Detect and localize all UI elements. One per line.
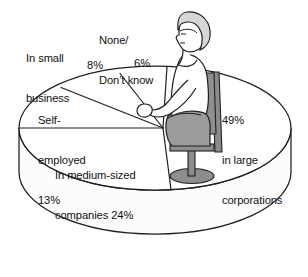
- pie-chart-figure: In small business None/ Don’t know Self-…: [0, 0, 308, 277]
- slice-label-self-employed-line1: Self-: [38, 114, 110, 127]
- slice-label-medium-sized-companies: In medium-sized companies 24%: [55, 143, 175, 249]
- chair-column: [188, 150, 195, 176]
- slice-label-none-line1: None/: [99, 34, 194, 47]
- slice-label-large-line2: in large: [222, 154, 306, 167]
- slice-value-small-business: 8%: [87, 59, 103, 72]
- slice-label-medium-line1: In medium-sized: [55, 169, 175, 182]
- slice-label-large-line3: corporations: [222, 194, 306, 207]
- slice-label-medium-line2: companies 24%: [55, 209, 175, 222]
- slice-value-large-corporations: 49%: [222, 114, 306, 127]
- slice-label-none-line2: Don’t know: [99, 74, 194, 87]
- slice-value-none-dont-know: 6%: [134, 57, 150, 70]
- slice-label-large-corporations: 49% in large corporations: [222, 88, 306, 233]
